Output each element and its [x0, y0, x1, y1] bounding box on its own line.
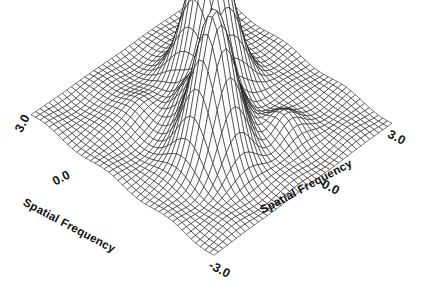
figure-canvas: 3.0 0.0 Spatial Frequency 3.0 0.0 -3.0 S… [0, 0, 424, 290]
surface-wireframe-plot [0, 0, 424, 290]
